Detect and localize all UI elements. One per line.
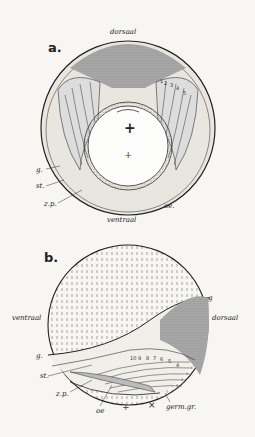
segment-number: 7 [153,355,156,361]
label-oe-b: oe [96,407,104,415]
segment-number: 6 [160,356,163,362]
label-germ-gr-b: germ.gr. [166,403,196,411]
plus-small-marker-b: + [122,402,130,412]
label-zp-b: z.p. [55,390,69,398]
segment-number: 9 [138,355,141,361]
label-g-left-b: g. [36,352,43,360]
label-dorsal-a: dorsaal [110,28,136,36]
cross-marker-b: × [148,400,156,410]
embryo-diagram: a. dorsaal ventraal g. st. z.p. oe. + + … [0,0,255,437]
segment-number: 2 [164,80,167,86]
label-g-right-b: g [208,294,213,302]
segment-number: 5 [183,90,186,96]
segment-number: 10 [130,355,136,361]
segment-number: 5 [168,358,171,364]
label-dorsal-b: dorsaal [212,314,238,322]
label-oe-a: oe. [164,202,175,210]
figure-a: a. dorsaal ventraal g. st. z.p. oe. + + … [36,28,215,224]
plus-small-marker-a: + [124,149,132,160]
label-st-b: st. [40,372,49,380]
segment-number: 4 [176,362,179,368]
segment-number: 4 [176,85,179,91]
segment-number: 3 [170,82,173,88]
segment-number: 8 [146,355,149,361]
panel-label-b: b. [44,250,58,265]
segment-number: 1 [160,78,163,84]
plus-marker-a: + [124,120,136,136]
central-cavity-a [88,106,168,186]
panel-label-a: a. [48,40,62,55]
label-st-a: st. [36,182,45,190]
label-ventral-a: ventraal [107,216,136,224]
label-ventral-b: ventraal [12,314,41,322]
label-g-a: g. [36,166,43,174]
label-zp-a: z.p. [43,200,57,208]
figure-b: b. ventraal dorsaal g g. st. z.p. oe + ×… [12,245,238,415]
